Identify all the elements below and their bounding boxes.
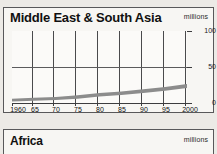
x-tick-label-65: 65	[31, 106, 39, 113]
y-tick-label-0: 0	[192, 99, 216, 106]
x-tick-label-75: 75	[74, 106, 82, 113]
x-tick-label-70: 70	[52, 106, 60, 113]
gridline-horizontal-50	[12, 67, 187, 68]
page-title-africa: Africa	[10, 134, 43, 148]
page-title: Middle East & South Asia	[10, 10, 161, 25]
x-tick-label-95: 95	[162, 106, 170, 113]
x-tick-label-1960: 1960	[10, 106, 26, 113]
y-axis-units-label-africa: millions	[184, 136, 208, 143]
chart-panel-middle-east-south-asia: Middle East & South Asia millions 100	[3, 7, 214, 113]
y-tick-label-50: 50	[192, 63, 216, 70]
chart-panel-africa: Africa millions	[3, 129, 214, 154]
x-tick-label-80: 80	[96, 106, 104, 113]
y-axis-units-label: millions	[184, 13, 208, 20]
figure-page: Middle East & South Asia millions 100	[0, 0, 217, 154]
x-tick-label-85: 85	[118, 106, 126, 113]
x-tick-label-2000: 2000	[182, 106, 198, 113]
plot-area	[12, 31, 187, 103]
x-tick-label-90: 90	[140, 106, 148, 113]
y-tick-label-100: 100	[192, 27, 216, 34]
x-axis-line	[12, 103, 187, 104]
